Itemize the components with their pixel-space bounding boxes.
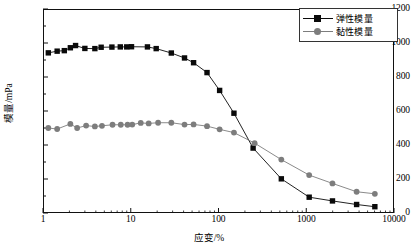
x-tick-label: 100 (194, 215, 244, 225)
legend-item-viscous-modulus: 黏性模量 (303, 25, 393, 38)
y-tick-label: 200 (372, 174, 410, 184)
x-axis-title-text: 应变/% (186, 233, 225, 243)
square-marker-icon (314, 15, 321, 22)
chart-legend: 弹性模量 黏性模量 (299, 8, 398, 42)
y-tick-label: 400 (372, 140, 410, 150)
legend-swatch-elastic-modulus (303, 13, 333, 24)
x-tick-label: 1 (18, 215, 68, 225)
x-tick-label: 1000 (281, 215, 331, 225)
legend-label-viscous-modulus: 黏性模量 (333, 25, 373, 38)
y-tick-label: 600 (372, 106, 410, 116)
y-tick-label: 800 (372, 72, 410, 82)
x-tick-label: 10000 (369, 215, 415, 225)
circle-marker-icon (314, 28, 321, 35)
legend-label-elastic-modulus: 弹性模量 (333, 12, 373, 25)
y-axis-title: 模量/mPa (1, 73, 15, 133)
legend-item-elastic-modulus: 弹性模量 (303, 12, 393, 25)
x-axis-title: 应变/% (0, 230, 410, 244)
x-tick-label: 10 (106, 215, 156, 225)
legend-swatch-viscous-modulus (303, 26, 333, 37)
